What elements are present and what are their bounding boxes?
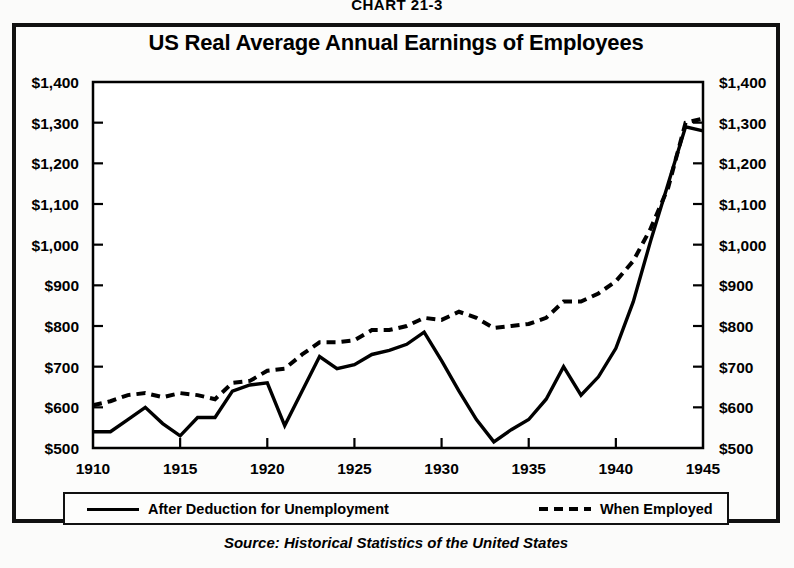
- plot-area: $1,400$1,300$1,200$1,100$1,000$900$800$7…: [12, 23, 780, 523]
- y-axis-tick-label-left: $600: [45, 399, 79, 416]
- y-axis-labels-right: $1,400$1,300$1,200$1,100$1,000$900$800$7…: [719, 74, 766, 457]
- y-axis-tick-label-right: $500: [719, 440, 753, 457]
- line-chart-svg: $1,400$1,300$1,200$1,100$1,000$900$800$7…: [12, 23, 780, 523]
- x-axis-tick-label: 1940: [599, 460, 633, 477]
- y-axis-tick-label-left: $1,400: [32, 74, 79, 91]
- y-axis-tick-label-right: $1,400: [719, 74, 766, 91]
- y-axis-tick-label-right: $1,100: [719, 196, 766, 213]
- legend-label-after-deduction: After Deduction for Unemployment: [148, 501, 389, 517]
- y-axis-tick-label-left: $1,300: [32, 115, 79, 132]
- x-axis-tick-label: 1935: [511, 460, 546, 477]
- x-axis-tick-label: 1925: [337, 460, 372, 477]
- y-axis-tick-label-right: $800: [719, 318, 753, 335]
- legend-dashed-line-swatch: [539, 502, 591, 516]
- y-axis-tick-label-left: $1,100: [32, 196, 79, 213]
- x-axis-tick-label: 1920: [250, 460, 284, 477]
- y-axis-tick-label-left: $1,000: [32, 237, 79, 254]
- x-axis-tick-label: 1930: [424, 460, 458, 477]
- x-axis-labels: 19101915192019251930193519401945: [76, 460, 721, 477]
- y-axis-tick-label-right: $1,000: [719, 237, 766, 254]
- chart-figure: CHART 21-3 US Real Average Annual Earnin…: [0, 0, 794, 568]
- y-axis-tick-label-left: $500: [45, 440, 79, 457]
- x-axis-tick-label: 1910: [76, 460, 110, 477]
- y-axis-tick-label-left: $700: [45, 359, 79, 376]
- chart-legend: After Deduction for Unemployment When Em…: [63, 492, 729, 525]
- legend-item-when-employed: When Employed: [539, 501, 713, 517]
- y-axis-tick-label-left: $900: [45, 277, 79, 294]
- x-axis-tick-label: 1915: [163, 460, 198, 477]
- source-note: Source: Historical Statistics of the Uni…: [12, 534, 780, 551]
- y-axis-tick-label-left: $1,200: [32, 155, 79, 172]
- x-axis-tick-label: 1945: [686, 460, 721, 477]
- y-axis-tick-label-right: $1,200: [719, 155, 766, 172]
- legend-item-after-deduction: After Deduction for Unemployment: [87, 501, 389, 517]
- y-axis-tick-label-right: $600: [719, 399, 753, 416]
- legend-label-when-employed: When Employed: [600, 501, 713, 517]
- y-axis-tick-label-right: $700: [719, 359, 753, 376]
- y-axis-tick-label-right: $900: [719, 277, 753, 294]
- y-axis-tick-label-right: $1,300: [719, 115, 766, 132]
- y-axis-labels-left: $1,400$1,300$1,200$1,100$1,000$900$800$7…: [32, 74, 79, 457]
- y-axis-tick-label-left: $800: [45, 318, 79, 335]
- chart-number-caption: CHART 21-3: [0, 0, 794, 13]
- legend-solid-line-swatch: [87, 502, 139, 516]
